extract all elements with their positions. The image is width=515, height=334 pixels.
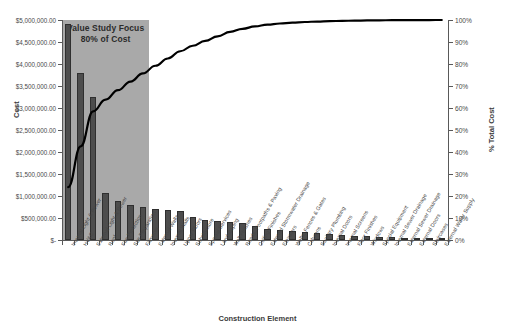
y2-tick-6 bbox=[449, 108, 453, 109]
y2-tick-label-5: 50% bbox=[455, 127, 468, 134]
y-tick-label-9: $4,500,000.00 bbox=[16, 39, 56, 46]
y2-tick-label-9: 90% bbox=[455, 39, 468, 46]
x-axis-line bbox=[62, 240, 449, 241]
y2-tick-label-0: 0% bbox=[455, 237, 465, 244]
y-tick-7 bbox=[58, 86, 62, 87]
y-tick-label-2: $1,000,000.00 bbox=[16, 193, 56, 200]
y-tick-10 bbox=[58, 20, 62, 21]
y2-tick-5 bbox=[449, 130, 453, 131]
y-tick-label-5: $2,500,000.00 bbox=[16, 127, 56, 134]
y-tick-3 bbox=[58, 174, 62, 175]
y-tick-8 bbox=[58, 64, 62, 65]
y2-tick-label-10: 100% bbox=[455, 17, 472, 24]
y-tick-1 bbox=[58, 218, 62, 219]
y2-tick-label-4: 40% bbox=[455, 149, 468, 156]
y2-tick-7 bbox=[449, 86, 453, 87]
y-tick-label-8: $4,000,000.00 bbox=[16, 61, 56, 68]
pareto-chart: Cost % Total Cost Construction Element V… bbox=[0, 0, 515, 334]
y2-tick-label-6: 60% bbox=[455, 105, 468, 112]
y-tick-9 bbox=[58, 42, 62, 43]
y-tick-4 bbox=[58, 152, 62, 153]
y2-tick-label-2: 20% bbox=[455, 193, 468, 200]
y2-tick-label-8: 80% bbox=[455, 61, 468, 68]
y2-tick-2 bbox=[449, 196, 453, 197]
y2-tick-10 bbox=[449, 20, 453, 21]
y-tick-label-3: $1,500,000.00 bbox=[16, 171, 56, 178]
x-tick-0 bbox=[62, 241, 63, 245]
y-tick-label-1: $500,000.00 bbox=[21, 215, 56, 222]
y-tick-label-4: $2,000,000.00 bbox=[16, 149, 56, 156]
y2-tick-9 bbox=[449, 42, 453, 43]
y-axis-line bbox=[62, 20, 63, 241]
y-tick-6 bbox=[58, 108, 62, 109]
y-tick-label-7: $3,500,000.00 bbox=[16, 83, 56, 90]
y-tick-5 bbox=[58, 130, 62, 131]
y-tick-label-10: $5,000,000.00 bbox=[16, 17, 56, 24]
y2-tick-label-3: 30% bbox=[455, 171, 468, 178]
y2-tick-3 bbox=[449, 174, 453, 175]
y-tick-label-0: $- bbox=[50, 237, 56, 244]
x-axis-title: Construction Element bbox=[0, 314, 515, 323]
cumulative-curve-path bbox=[68, 20, 442, 187]
y2-tick-4 bbox=[449, 152, 453, 153]
y-tick-2 bbox=[58, 196, 62, 197]
y2-tick-8 bbox=[449, 64, 453, 65]
secondary-y-axis-title: % Total Cost bbox=[487, 107, 496, 152]
y2-tick-1 bbox=[449, 218, 453, 219]
y-tick-label-6: $3,000,000.00 bbox=[16, 105, 56, 112]
y2-tick-label-7: 70% bbox=[455, 83, 468, 90]
